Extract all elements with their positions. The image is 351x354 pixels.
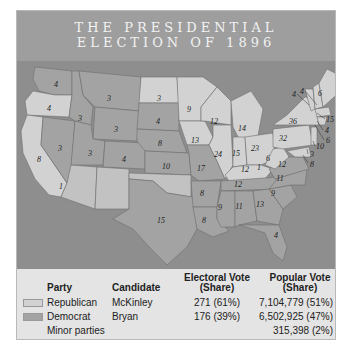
ev-label-ky-1: 1 xyxy=(257,163,261,172)
row-republican-popular: 7,104,779 (51%) xyxy=(245,297,333,308)
ev-label-la: 8 xyxy=(202,216,206,225)
ev-label-mt: 3 xyxy=(106,94,111,103)
ev-label-ga: 13 xyxy=(256,200,264,209)
header-party: Party xyxy=(47,283,72,293)
democrat-swatch xyxy=(23,313,43,321)
ev-label-vt: 4 xyxy=(292,90,296,99)
ev-label-nc: 11 xyxy=(276,174,283,183)
row-democrat-popular: 6,502,925 (47%) xyxy=(245,311,333,322)
state-ne xyxy=(137,129,187,153)
state-wa xyxy=(33,67,72,95)
ev-label-tn: 12 xyxy=(234,180,242,189)
us-map: 4 4 8 1 3 3 3 3 3 4 3 4 8 10 15 9 13 17 … xyxy=(17,61,335,269)
ev-label-ar: 8 xyxy=(200,189,204,198)
header-electoral-line2: (Share) xyxy=(177,283,257,293)
ev-label-sc: 9 xyxy=(271,189,275,198)
ev-label-ny: 36 xyxy=(288,117,297,126)
state-wy xyxy=(93,107,139,141)
row-democrat-party: Democrat xyxy=(47,311,90,322)
ev-label-me: 6 xyxy=(318,89,322,98)
ev-label-mn: 9 xyxy=(187,105,191,114)
row-minor-party: Minor parties xyxy=(47,325,105,336)
title-line-1: THE PRESIDENTIAL xyxy=(17,20,335,35)
ev-label-pa: 32 xyxy=(278,134,287,143)
state-nm xyxy=(95,167,129,209)
row-republican-party: Republican xyxy=(47,297,97,308)
ev-label-ca: 8 xyxy=(37,155,41,164)
ev-label-mi: 14 xyxy=(238,124,246,133)
ev-label-wy: 3 xyxy=(113,125,118,134)
ev-label-ky: 12 xyxy=(241,165,249,174)
ev-label-ut: 3 xyxy=(87,149,92,158)
state-fl xyxy=(239,225,287,261)
map-figure: THE PRESIDENTIAL ELECTION OF 1896 xyxy=(16,10,336,340)
ev-label-wv: 6 xyxy=(266,154,270,163)
ev-label-nv: 3 xyxy=(57,144,62,153)
row-minor-popular: 315,398 (2%) xyxy=(245,325,333,336)
ev-label-ne: 8 xyxy=(158,139,162,148)
row-democrat-candidate: Bryan xyxy=(112,311,138,322)
ev-label-ma: 15 xyxy=(326,115,334,124)
ev-label-ia: 13 xyxy=(191,136,199,145)
ev-label-md: 8 xyxy=(310,160,314,169)
ev-label-wi: 12 xyxy=(210,117,218,126)
ev-label-ri: 4 xyxy=(325,126,329,135)
ev-label-fl: 4 xyxy=(274,231,278,240)
ev-label-ct: 6 xyxy=(326,136,330,145)
ev-label-il: 24 xyxy=(214,150,222,159)
ev-label-oh: 23 xyxy=(251,144,259,153)
ev-label-tx: 15 xyxy=(157,216,165,225)
ev-label-id: 3 xyxy=(77,114,82,123)
ev-label-co: 4 xyxy=(122,155,126,164)
header-candidate: Candidate xyxy=(112,283,160,293)
title-line-2: ELECTION OF 1896 xyxy=(17,35,335,50)
row-republican-candidate: McKinley xyxy=(112,297,153,308)
ev-label-or: 4 xyxy=(47,104,51,113)
states-svg: 4 4 8 1 3 3 3 3 3 4 3 4 8 10 15 9 13 17 … xyxy=(17,61,335,269)
ev-label-in: 15 xyxy=(232,149,240,158)
ev-label-nh: 4 xyxy=(300,87,304,96)
republican-swatch xyxy=(23,299,43,307)
ev-label-ms: 9 xyxy=(218,203,222,212)
ev-label-de: 3 xyxy=(309,150,314,159)
map-title: THE PRESIDENTIAL ELECTION OF 1896 xyxy=(17,11,335,61)
ev-label-ks: 10 xyxy=(162,162,170,171)
ev-label-nj: 10 xyxy=(316,142,324,151)
ev-label-ca-1: 1 xyxy=(59,182,63,191)
ev-label-nd: 3 xyxy=(156,94,161,103)
ev-label-wa: 4 xyxy=(54,80,58,89)
ev-label-va: 12 xyxy=(278,160,286,169)
ev-label-al: 11 xyxy=(235,202,242,211)
ev-label-mo: 17 xyxy=(197,164,206,173)
results-table: Party Candidate Electoral Vote (Share) P… xyxy=(17,269,335,339)
ev-label-sd: 4 xyxy=(156,117,160,126)
header-popular-line2: (Share) xyxy=(265,283,335,293)
state-ar xyxy=(191,181,221,207)
